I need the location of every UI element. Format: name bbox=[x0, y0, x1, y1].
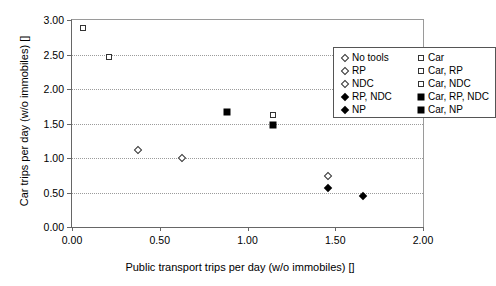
legend-item: NP bbox=[340, 103, 392, 116]
y-tick-mark bbox=[67, 227, 71, 228]
legend-item: Car, RP bbox=[416, 64, 489, 77]
x-tick-label: 1.50 bbox=[325, 234, 345, 246]
legend: No toolsRPNDCRP, NDCNP CarCar, RPCar, ND… bbox=[333, 47, 496, 118]
legend-label: RP bbox=[352, 65, 366, 76]
x-tick-mark bbox=[72, 227, 73, 231]
legend-item: Car, RP, NDC bbox=[416, 90, 489, 103]
legend-column-right: CarCar, RPCar, NDCCar, RP, NDCCar, NP bbox=[416, 51, 489, 116]
y-tick-label: 3.00 bbox=[24, 14, 64, 26]
x-tick-label: 0.00 bbox=[62, 234, 82, 246]
x-tick-mark bbox=[423, 227, 424, 231]
x-tick-mark bbox=[160, 227, 161, 231]
legend-label: No tools bbox=[352, 52, 389, 63]
legend-item: RP bbox=[340, 64, 392, 77]
legend-marker-icon bbox=[416, 66, 425, 75]
legend-marker-icon bbox=[340, 92, 349, 101]
legend-marker-icon bbox=[416, 53, 425, 62]
gridline bbox=[72, 124, 423, 125]
legend-label: Car, RP, NDC bbox=[428, 91, 489, 102]
x-tick-label: 1.00 bbox=[237, 234, 257, 246]
legend-marker-icon bbox=[340, 66, 349, 75]
y-tick-mark bbox=[67, 55, 71, 56]
legend-label: NP bbox=[352, 104, 366, 115]
legend-label: Car, RP bbox=[428, 65, 463, 76]
y-tick-label: 2.50 bbox=[24, 49, 64, 61]
legend-label: Car, NP bbox=[428, 104, 463, 115]
legend-label: Car bbox=[428, 52, 444, 63]
data-point bbox=[177, 154, 185, 162]
x-tick-label: 2.00 bbox=[413, 234, 433, 246]
legend-marker-icon bbox=[416, 79, 425, 88]
data-point bbox=[270, 112, 276, 118]
legend-marker-icon bbox=[416, 105, 425, 114]
data-point bbox=[224, 109, 231, 116]
y-tick-mark bbox=[67, 158, 71, 159]
y-tick-mark bbox=[67, 20, 71, 21]
data-point bbox=[80, 25, 86, 31]
legend-marker-icon bbox=[340, 79, 349, 88]
legend-item: Car bbox=[416, 51, 489, 64]
x-tick-mark bbox=[335, 227, 336, 231]
legend-marker-icon bbox=[340, 53, 349, 62]
x-tick-mark bbox=[248, 227, 249, 231]
gridline bbox=[72, 158, 423, 159]
legend-label: NDC bbox=[352, 78, 374, 89]
plot-area: 0.000.501.001.502.002.503.00 0.000.501.0… bbox=[71, 19, 424, 228]
y-tick-mark bbox=[67, 193, 71, 194]
y-tick-label: 0.50 bbox=[24, 187, 64, 199]
gridline bbox=[72, 193, 423, 194]
legend-item: No tools bbox=[340, 51, 392, 64]
legend-label: RP, NDC bbox=[352, 91, 392, 102]
legend-item: NDC bbox=[340, 77, 392, 90]
y-tick-label: 0.00 bbox=[24, 221, 64, 233]
y-tick-mark bbox=[67, 124, 71, 125]
legend-column-left: No toolsRPNDCRP, NDCNP bbox=[340, 51, 392, 116]
data-point bbox=[269, 121, 276, 128]
legend-item: RP, NDC bbox=[340, 90, 392, 103]
data-point bbox=[106, 54, 112, 60]
data-point bbox=[324, 183, 332, 191]
data-point bbox=[324, 172, 332, 180]
legend-item: Car, NDC bbox=[416, 77, 489, 90]
y-tick-label: 1.50 bbox=[24, 118, 64, 130]
y-tick-mark bbox=[67, 89, 71, 90]
legend-marker-icon bbox=[416, 92, 425, 101]
x-axis-title: Public transport trips per day (w/o immo… bbox=[45, 261, 435, 273]
data-point bbox=[134, 146, 142, 154]
legend-item: Car, NP bbox=[416, 103, 489, 116]
legend-label: Car, NDC bbox=[428, 78, 471, 89]
legend-marker-icon bbox=[340, 105, 349, 114]
y-tick-label: 1.00 bbox=[24, 152, 64, 164]
x-tick-label: 0.50 bbox=[150, 234, 170, 246]
y-tick-label: 2.00 bbox=[24, 83, 64, 95]
